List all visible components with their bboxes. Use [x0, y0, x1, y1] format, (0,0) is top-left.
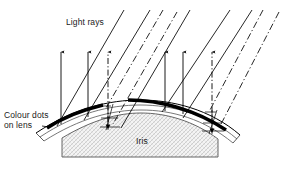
optics-diagram: Light rays Colour dotson lens Iris	[0, 0, 284, 174]
label-colour-dots-line1: Colour dots	[4, 110, 49, 120]
label-iris: Iris	[136, 136, 148, 146]
label-light-rays: Light rays	[66, 17, 104, 27]
label-colour-dots-line2: on lens	[4, 120, 32, 130]
incident-ray-dashdot-1	[106, 10, 163, 108]
incident-ray-5	[183, 10, 252, 118]
incident-ray-dashdot-4	[219, 12, 279, 128]
diagram-canvas	[0, 0, 284, 174]
label-colour-dots-on-lens: Colour dotson lens	[4, 110, 49, 130]
